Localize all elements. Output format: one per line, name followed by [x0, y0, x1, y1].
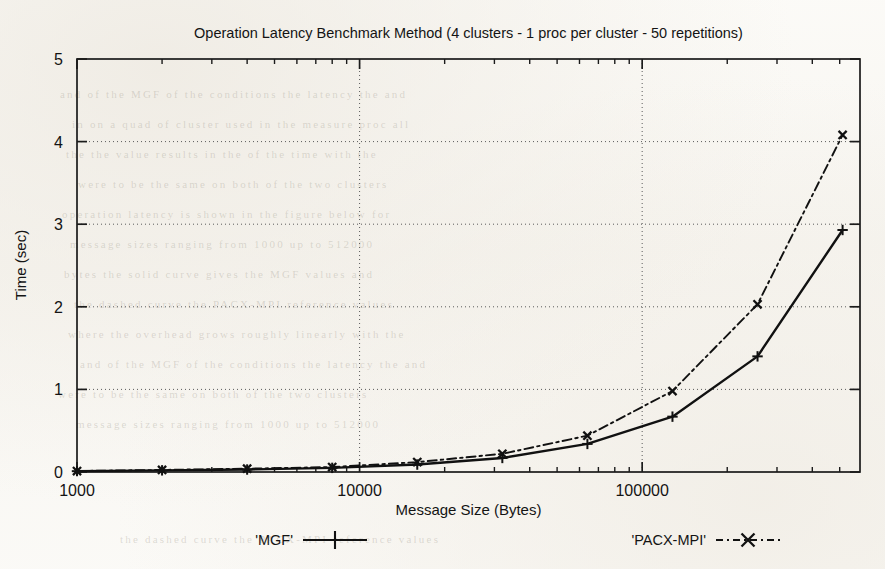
y-tick-label: 3: [54, 216, 63, 233]
chart-title: Operation Latency Benchmark Method (4 cl…: [194, 25, 743, 41]
y-tick-label: 0: [54, 464, 63, 481]
y-tick-label: 5: [54, 51, 63, 68]
x-axis-ticks: 100010000100000: [59, 59, 839, 499]
data-point-marker: [668, 387, 676, 395]
x-tick-label: 100000: [615, 482, 668, 499]
data-point-marker: [582, 439, 592, 449]
series-line-0: [77, 230, 843, 471]
y-tick-label: 2: [54, 299, 63, 316]
y-tick-label: 4: [54, 134, 63, 151]
gridlines: [77, 59, 860, 472]
x-axis-title: Message Size (Bytes): [396, 501, 542, 518]
data-markers: [72, 131, 848, 476]
legend: 'MGF' 'PACX-MPI': [255, 531, 780, 549]
plot-area-border: [77, 59, 860, 472]
y-axis-ticks: 012345: [54, 51, 860, 481]
y-tick-label: 1: [54, 381, 63, 398]
data-series: [77, 135, 843, 471]
data-point-marker: [839, 131, 847, 139]
series-line-1: [77, 135, 843, 471]
legend-swatch-mgf: [303, 531, 367, 549]
legend-label-mgf: 'MGF': [255, 532, 293, 548]
legend-label-pacx-mpi: 'PACX-MPI': [631, 532, 706, 548]
figure-page: and of the MGF of the conditions the lat…: [0, 0, 885, 569]
x-tick-label: 1000: [59, 482, 95, 499]
x-tick-label: 10000: [337, 482, 382, 499]
benchmark-line-chart: 100010000100000 012345 Operation Latency…: [0, 0, 885, 569]
legend-swatch-pacx-mpi: [716, 534, 780, 547]
y-axis-title: Time (sec): [12, 230, 29, 300]
